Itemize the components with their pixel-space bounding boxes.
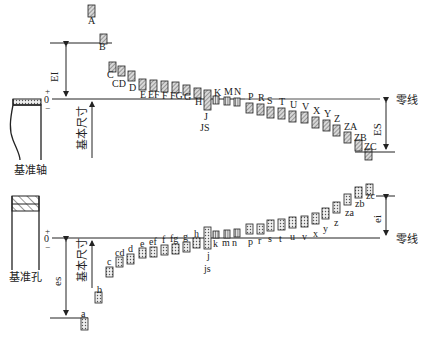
deviation-bar-z <box>333 202 340 213</box>
deviation-label-R: R <box>258 92 265 103</box>
deviation-label-t: t <box>279 233 282 244</box>
deviation-label-V: V <box>302 101 310 112</box>
deviation-label-z: z <box>334 217 339 228</box>
deviation-bar-R <box>257 104 264 115</box>
deviation-bar-f <box>161 245 168 255</box>
deviation-bar-y <box>322 208 329 219</box>
deviation-label-ef: ef <box>149 236 157 247</box>
deviation-label-h: h <box>194 228 199 239</box>
n-bar <box>234 229 240 237</box>
deviation-bar-t <box>278 219 285 230</box>
deviation-label-zb: zb <box>355 198 364 209</box>
M-bar <box>224 97 230 105</box>
basic-size-label: 基本尺寸 <box>75 238 89 282</box>
deviation-label-H: H <box>195 96 202 107</box>
basic-size-label: 基本尺寸 <box>75 106 89 150</box>
J-label: J <box>204 111 208 122</box>
deviation-bar-CD <box>118 66 125 76</box>
deviation-bar-v <box>301 216 308 227</box>
deviation-bar-h <box>193 238 200 248</box>
JS-label: JS <box>200 122 209 133</box>
deviation-bar-fg <box>172 244 179 254</box>
hole-deviation-bars-right: PRSTUVXYZZAZBZC <box>246 91 377 160</box>
deviation-label-y: y <box>323 223 328 234</box>
J-JS-bar <box>204 90 211 110</box>
deviation-label-d: d <box>128 243 133 254</box>
ES-label: ES <box>371 123 383 136</box>
deviation-label-FG: FG <box>170 90 183 101</box>
deviation-label-X: X <box>313 105 321 116</box>
deviation-bar-za <box>344 194 351 205</box>
deviation-bar-T <box>278 108 285 119</box>
deviation-label-ZC: ZC <box>364 141 377 152</box>
deviation-bar-zb <box>355 187 362 198</box>
zero-line-label: 零线 <box>396 93 418 107</box>
deviation-label-p: p <box>248 236 253 247</box>
deviation-bar-x <box>312 213 319 224</box>
bottom-section: 基准孔 + 0 − es 基本尺寸 abccddeefffggh j js k … <box>9 184 418 330</box>
tolerance-diagram: 基准轴 + 0 − EI 基本尺寸 ABCCDDEEFFFGGH J JS K … <box>0 0 428 340</box>
es-label: es <box>51 277 63 286</box>
deviation-bar-ZA <box>344 132 351 143</box>
ei-label: ei <box>371 215 383 223</box>
m-label: m <box>222 237 230 248</box>
deviation-label-ZA: ZA <box>344 121 358 132</box>
deviation-label-Y: Y <box>324 108 331 119</box>
k-label: k <box>213 238 218 249</box>
deviation-label-fg: fg <box>170 233 178 244</box>
deviation-label-A: A <box>88 15 96 26</box>
deviation-label-r: r <box>258 235 262 246</box>
deviation-label-S: S <box>267 95 273 106</box>
hole-deviation-bars: ABCCDDEEFFFGGH <box>88 5 202 107</box>
deviation-bar-V <box>301 112 308 123</box>
deviation-label-zc: zc <box>366 190 375 201</box>
deviation-label-g: g <box>183 231 188 242</box>
deviation-label-e: e <box>140 238 145 249</box>
deviation-bar-c <box>106 267 113 277</box>
deviation-bar-D <box>128 71 135 81</box>
deviation-bar-X <box>312 117 319 128</box>
shaft-deviation-bars: abccddeefffggh <box>81 228 200 330</box>
deviation-label-F: F <box>162 90 168 101</box>
deviation-label-EF: EF <box>148 89 160 100</box>
deviation-bar-ef <box>150 247 157 257</box>
deviation-bar-P <box>246 103 253 113</box>
deviation-label-b: b <box>97 284 102 295</box>
deviation-label-U: U <box>290 99 298 110</box>
deviation-bar-Y <box>323 120 330 131</box>
deviation-bar-a <box>81 318 88 330</box>
N-bar <box>234 98 240 106</box>
deviation-label-cd: cd <box>115 247 124 258</box>
M-label: M <box>224 86 233 97</box>
basis-shaft-label: 基准轴 <box>14 163 47 177</box>
diagram-canvas: 基准轴 + 0 − EI 基本尺寸 ABCCDDEEFFFGGH J JS K … <box>0 0 428 340</box>
deviation-label-v: v <box>302 231 307 242</box>
deviation-label-u: u <box>290 231 295 242</box>
deviation-bar-u <box>289 217 296 228</box>
deviation-label-E: E <box>140 89 146 100</box>
deviation-label-B: B <box>99 41 106 52</box>
deviation-label-c: c <box>107 256 112 267</box>
js-label: js <box>203 263 211 274</box>
basis-shaft-shape <box>10 99 41 160</box>
deviation-bar-p <box>246 224 253 234</box>
minus-sign: − <box>45 103 50 113</box>
deviation-label-f: f <box>162 234 166 245</box>
deviation-label-a: a <box>81 308 86 319</box>
EI-label: EI <box>48 71 60 82</box>
K-label: K <box>214 87 222 98</box>
deviation-label-CD: CD <box>112 78 126 89</box>
deviation-bar-s <box>267 220 274 231</box>
deviation-label-G: G <box>184 91 191 102</box>
deviation-bar-S <box>267 107 274 118</box>
top-section: 基准轴 + 0 − EI 基本尺寸 ABCCDDEEFFFGGH J JS K … <box>10 5 418 177</box>
deviation-bar-g <box>183 242 190 252</box>
deviation-bar-d <box>127 254 134 264</box>
deviation-label-P: P <box>248 91 254 102</box>
N-label: N <box>234 86 241 97</box>
deviation-label-za: za <box>345 207 354 218</box>
deviation-bar-cd <box>116 257 123 267</box>
deviation-label-T: T <box>279 96 285 107</box>
deviation-bar-r <box>257 224 264 234</box>
j-label: j <box>206 250 210 261</box>
